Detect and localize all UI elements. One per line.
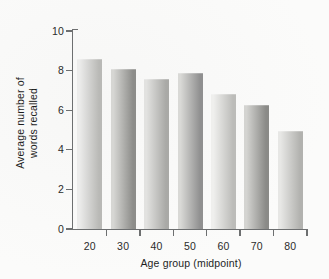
y-tick-label: 6 xyxy=(38,105,64,115)
bar-20 xyxy=(77,59,102,229)
y-axis-title-line-1: Average number of xyxy=(14,38,27,208)
y-tick-mark xyxy=(66,110,73,111)
y-tick-label: 4 xyxy=(38,144,64,154)
x-tick-label: 80 xyxy=(270,240,310,252)
x-tick-mark xyxy=(206,230,207,236)
bar-80 xyxy=(278,131,303,229)
y-tick-mark xyxy=(66,189,73,190)
y-tick-label: 10 xyxy=(38,26,64,36)
x-tick-mark xyxy=(106,230,107,236)
y-tick-mark xyxy=(66,149,73,150)
bar-chart-figure: 0246810 20304050607080 Age group (midpoi… xyxy=(0,0,329,279)
x-axis-title: Age group (midpoint) xyxy=(73,257,309,269)
bar-60 xyxy=(211,94,236,229)
bar-50 xyxy=(178,73,203,229)
bar-40 xyxy=(144,79,169,229)
y-axis-title-line-2: words recalled xyxy=(27,38,40,208)
bar-30 xyxy=(111,69,136,229)
y-tick-mark xyxy=(66,30,73,31)
y-tick-mark xyxy=(66,228,73,229)
x-tick-mark xyxy=(173,230,174,236)
y-tick-label: 8 xyxy=(38,65,64,75)
y-tick-mark xyxy=(66,70,73,71)
y-axis-title: Average number of words recalled xyxy=(14,38,40,208)
y-tick-label: 0 xyxy=(38,224,64,234)
x-tick-mark xyxy=(139,230,140,236)
bar-70 xyxy=(244,105,269,229)
x-tick-mark xyxy=(239,230,240,236)
y-axis-line xyxy=(72,29,73,230)
y-tick-label: 2 xyxy=(38,184,64,194)
x-tick-mark xyxy=(273,230,274,236)
x-tick-mark xyxy=(306,230,307,236)
